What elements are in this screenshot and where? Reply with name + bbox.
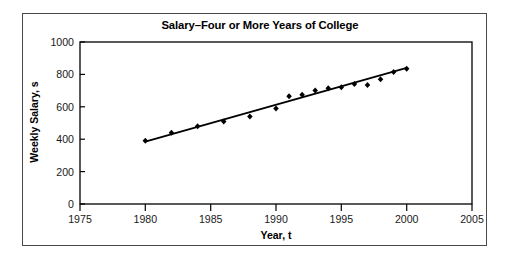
plot-frame bbox=[80, 42, 472, 204]
x-tick-label-2005: 2005 bbox=[447, 213, 497, 225]
x-tick-label-1975: 1975 bbox=[55, 213, 105, 225]
x-tick-label-2000: 2000 bbox=[382, 213, 432, 225]
y-tick-label-200: 200 bbox=[28, 166, 74, 178]
x-tick-marks bbox=[80, 204, 472, 211]
y-tick-label-0: 0 bbox=[28, 198, 74, 210]
y-tick-label-600: 600 bbox=[28, 101, 74, 113]
figure-container: Salary–Four or More Years of College Wee… bbox=[0, 0, 508, 260]
x-tick-label-1980: 1980 bbox=[120, 213, 170, 225]
y-tick-label-1000: 1000 bbox=[28, 36, 74, 48]
y-tick-label-800: 800 bbox=[28, 68, 74, 80]
x-tick-label-1985: 1985 bbox=[186, 213, 236, 225]
x-tick-label-1990: 1990 bbox=[251, 213, 301, 225]
y-tick-label-400: 400 bbox=[28, 133, 74, 145]
x-tick-label-1995: 1995 bbox=[316, 213, 366, 225]
